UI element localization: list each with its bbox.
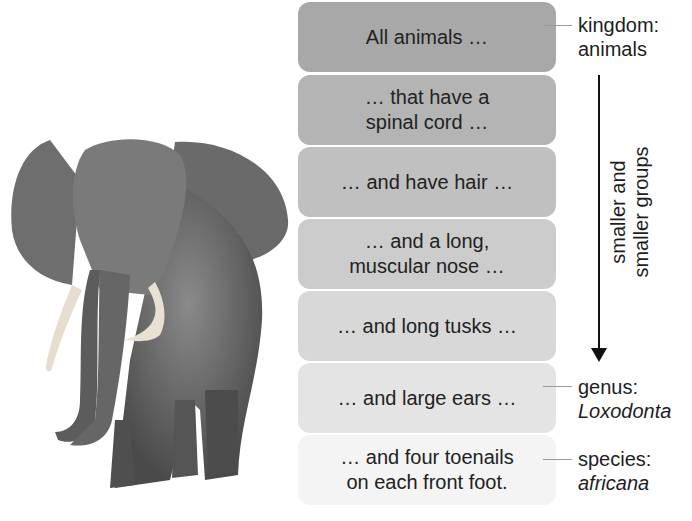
box-text: All animals … [366,25,488,50]
group-box-hair: … and have hair … [298,147,556,217]
arrow-caption-line2: smaller groups [630,146,653,277]
box-text: … and four toenails [340,445,513,470]
box-text: … and long tusks … [337,314,517,339]
group-box-four-toenails: … and four toenailson each front foot. [298,435,556,505]
box-text: … and have hair … [341,170,513,195]
arrow-caption: smaller and smaller groups [607,146,653,277]
arrow-caption-line1: smaller and [607,146,630,277]
species-connector-line [543,459,572,460]
down-arrow-line [598,75,600,350]
species-name: africana [578,471,651,495]
box-text: … and a long, [349,229,505,254]
box-text: on each front foot. [340,470,513,495]
arrow-down-icon [591,348,607,362]
kingdom-name: animals [578,37,659,61]
group-box-long-nose: … and a long,muscular nose … [298,219,556,289]
kingdom-rank: kingdom: [578,13,659,37]
elephant-image [0,120,300,500]
species-rank: species: [578,447,651,471]
group-box-spinal-cord: … that have aspinal cord … [298,75,556,145]
genus-name: Loxodonta [578,399,671,423]
genus-label: genus: Loxodonta [578,375,671,423]
box-text: muscular nose … [349,254,505,279]
genus-connector-line [543,386,572,387]
group-box-long-tusks: … and long tusks … [298,291,556,361]
kingdom-connector-line [543,25,572,26]
genus-rank: genus: [578,375,671,399]
box-text: spinal cord … [365,110,490,135]
species-label: species: africana [578,447,651,495]
box-text: … and large ears … [338,386,517,411]
box-text: … that have a [365,85,490,110]
group-box-large-ears: … and large ears … [298,363,556,433]
kingdom-label: kingdom: animals [578,13,659,61]
group-box-all-animals: All animals … [298,2,556,72]
